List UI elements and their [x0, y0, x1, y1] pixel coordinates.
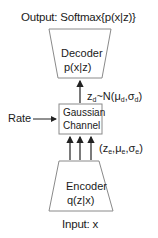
- input-label: Input: x: [62, 218, 98, 231]
- rate-label: Rate: [8, 112, 31, 125]
- encoder-title: Encoder: [66, 180, 107, 193]
- decoder-sample-formula: zd~N(μd,σd): [87, 90, 142, 103]
- encoder-formula: q(z|x): [67, 194, 94, 207]
- encoder-params-formula: (ze,μe,σe): [99, 142, 143, 155]
- gaussian-channel-line2: Channel: [63, 120, 100, 132]
- gaussian-channel-line1: Gaussian: [63, 107, 105, 119]
- decoder-formula: p(x|z): [64, 61, 91, 74]
- output-label: Output: Softmax{p(x|z)}: [21, 11, 136, 24]
- decoder-title: Decoder: [61, 47, 103, 60]
